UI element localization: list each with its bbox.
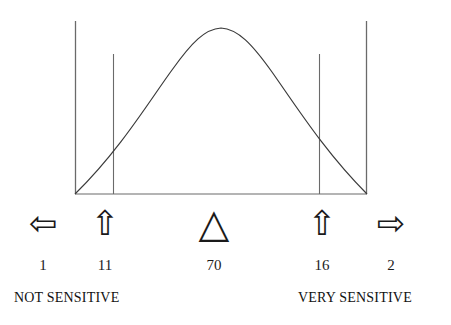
value-row: 1 11 70 16 2 bbox=[0, 255, 451, 277]
value-label-2: 11 bbox=[75, 255, 135, 275]
value-label-3: 70 bbox=[184, 255, 244, 275]
marker-row: ⇦ ⇧ △ ⇧ ⇨ bbox=[0, 198, 451, 250]
left-arrow-icon: ⇦ bbox=[15, 198, 71, 248]
distribution-curve bbox=[75, 28, 367, 194]
triangle-center-icon: △ bbox=[186, 198, 242, 248]
right-arrow-icon: ⇨ bbox=[363, 198, 419, 248]
figure-container: ⇦ ⇧ △ ⇧ ⇨ 1 11 70 16 2 NOT SENSITIVE VER… bbox=[0, 0, 451, 325]
value-label-1: 1 bbox=[13, 255, 73, 275]
value-label-5: 2 bbox=[361, 255, 421, 275]
value-label-4: 16 bbox=[292, 255, 352, 275]
up-arrow-high-icon: ⇧ bbox=[294, 198, 350, 248]
not-sensitive-label: NOT SENSITIVE bbox=[14, 288, 119, 308]
very-sensitive-label: VERY SENSITIVE bbox=[298, 288, 412, 308]
up-arrow-low-icon: ⇧ bbox=[77, 198, 133, 248]
end-label-row: NOT SENSITIVE VERY SENSITIVE bbox=[0, 288, 451, 312]
